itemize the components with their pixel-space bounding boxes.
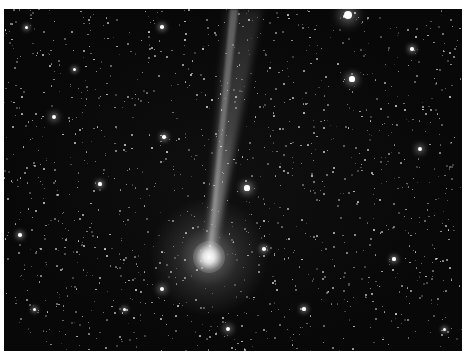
star (65, 44, 66, 45)
star (7, 258, 9, 260)
star (209, 330, 210, 331)
star (419, 297, 421, 299)
star (107, 22, 108, 23)
star (187, 195, 189, 197)
star (94, 301, 95, 302)
star (336, 126, 337, 127)
star (330, 125, 331, 126)
star (404, 319, 406, 321)
star (83, 245, 85, 247)
star (115, 94, 117, 96)
star (447, 331, 449, 333)
star (52, 115, 56, 119)
star (255, 332, 256, 333)
star (384, 311, 386, 313)
star (9, 31, 10, 32)
star (399, 291, 400, 292)
star (130, 298, 131, 299)
star (434, 215, 435, 216)
star (74, 322, 75, 323)
star (59, 294, 60, 295)
star (278, 309, 279, 310)
star (287, 208, 289, 210)
star (306, 223, 307, 224)
star (375, 254, 376, 255)
comet-nucleus (193, 241, 225, 273)
star (21, 275, 22, 276)
star (287, 68, 288, 69)
star (97, 126, 99, 128)
star (292, 168, 293, 169)
star (40, 164, 41, 165)
star (218, 130, 219, 131)
star (311, 175, 313, 177)
star (74, 142, 76, 144)
star (132, 98, 133, 99)
star (313, 132, 315, 134)
star (259, 106, 261, 108)
star (38, 150, 39, 151)
star (446, 165, 448, 167)
star (349, 76, 354, 81)
star (375, 308, 377, 310)
star (423, 283, 425, 285)
star (299, 334, 300, 335)
star (149, 48, 151, 50)
star (20, 212, 21, 213)
star (142, 72, 143, 73)
star (131, 134, 133, 136)
star (456, 46, 457, 47)
star (321, 48, 322, 49)
star (448, 229, 449, 230)
star (416, 166, 418, 168)
star (144, 335, 146, 337)
star (364, 159, 366, 161)
star (337, 63, 339, 65)
star (62, 320, 63, 321)
star (134, 104, 135, 105)
star (309, 45, 310, 46)
star (9, 42, 11, 44)
star (445, 225, 447, 227)
star (254, 87, 255, 88)
star (332, 171, 334, 173)
star (120, 189, 122, 191)
star (5, 88, 7, 90)
star (404, 109, 406, 111)
star (325, 248, 327, 250)
star (309, 37, 310, 38)
star (38, 310, 39, 311)
star (225, 322, 226, 323)
star (199, 335, 201, 337)
star (454, 48, 456, 50)
star (260, 176, 261, 177)
star (122, 312, 123, 313)
star (365, 294, 367, 296)
star (120, 275, 122, 277)
star (269, 234, 270, 235)
star (140, 291, 142, 293)
star (154, 55, 156, 57)
star (421, 295, 422, 296)
star (364, 266, 366, 268)
star (438, 176, 439, 177)
star (58, 220, 59, 221)
star (445, 88, 446, 89)
star (419, 276, 420, 277)
star (435, 258, 437, 260)
star (339, 29, 341, 31)
star (17, 58, 18, 59)
star (460, 78, 461, 79)
star (202, 48, 204, 50)
star (28, 208, 29, 209)
star (222, 317, 224, 319)
star (440, 144, 441, 145)
star (344, 11, 352, 19)
star (124, 101, 125, 102)
star (296, 348, 297, 349)
star (133, 317, 135, 319)
star (62, 268, 63, 269)
star (233, 89, 234, 90)
star (60, 269, 61, 270)
star (445, 193, 446, 194)
